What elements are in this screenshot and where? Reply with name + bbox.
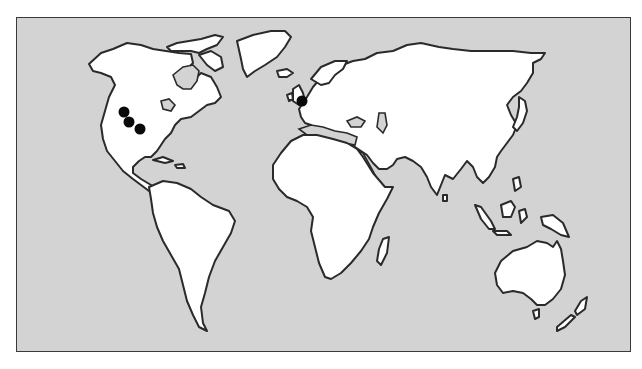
iceland <box>277 69 293 77</box>
arctic-islands <box>167 35 223 53</box>
tasmania <box>533 309 539 319</box>
location-marker[interactable] <box>124 117 135 128</box>
japan <box>513 97 527 131</box>
sumatra <box>475 205 495 229</box>
map-canvas <box>17 18 631 352</box>
location-marker[interactable] <box>135 124 146 135</box>
madagascar <box>377 237 389 265</box>
location-marker[interactable] <box>119 107 130 118</box>
location-marker[interactable] <box>297 96 308 107</box>
java <box>493 231 511 235</box>
australia <box>495 241 565 305</box>
ireland <box>287 93 293 101</box>
new-zealand-south <box>557 315 575 331</box>
cuba <box>153 157 173 163</box>
hispaniola <box>175 164 185 168</box>
baffin-island <box>199 51 223 71</box>
sri-lanka <box>443 195 447 201</box>
world-map <box>16 17 631 352</box>
south-america <box>149 181 235 331</box>
north-america <box>89 43 221 197</box>
new-zealand-north <box>575 297 587 315</box>
borneo <box>501 201 515 217</box>
sulawesi <box>519 209 527 223</box>
philippines <box>513 177 521 191</box>
new-guinea <box>541 215 569 237</box>
